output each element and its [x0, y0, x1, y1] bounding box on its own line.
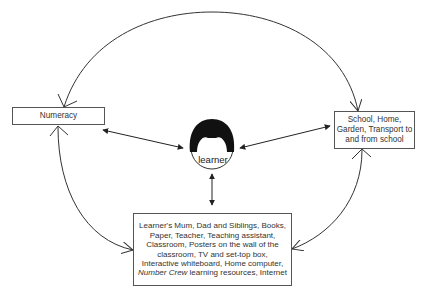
people-text-before: Learner's Mum, Dad and Siblings, Books, …	[139, 221, 286, 268]
node-numeracy-label: Numeracy	[40, 111, 77, 121]
link-learner-places	[240, 126, 330, 148]
people-text-after: learning resources, Internet	[187, 268, 287, 277]
arc-top-numeracy-places	[64, 12, 358, 111]
node-people-resources: Learner's Mum, Dad and Siblings, Books, …	[133, 213, 292, 286]
node-places: School, Home, Garden, Transport to and f…	[334, 111, 415, 149]
arc-left-numeracy-people	[58, 127, 133, 250]
people-text-italic: Number Crew	[138, 268, 187, 277]
link-learner-numeracy	[103, 130, 183, 148]
arrowhead-numeracy-bottom	[50, 126, 68, 136]
arc-right-places-people	[292, 150, 362, 249]
learner-label: learner	[193, 154, 233, 165]
node-numeracy: Numeracy	[12, 107, 105, 125]
node-people-resources-label: Learner's Mum, Dad and Siblings, Books, …	[138, 221, 287, 277]
node-places-label: School, Home, Garden, Transport to and f…	[335, 115, 414, 145]
